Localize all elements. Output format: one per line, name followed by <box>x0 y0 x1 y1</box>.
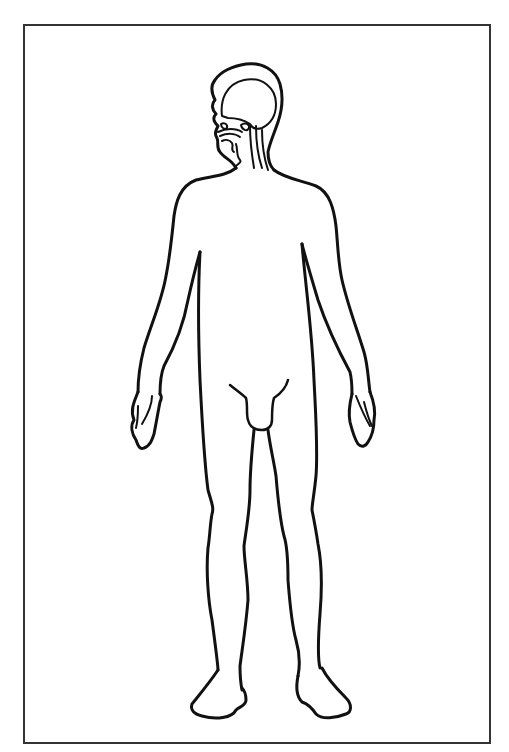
left-leg <box>199 252 255 690</box>
right-foot <box>297 668 351 718</box>
right-hand <box>349 392 375 446</box>
human-body-figure <box>0 0 509 752</box>
left-foot <box>191 670 246 718</box>
brain <box>222 79 276 129</box>
spinal-cord <box>250 126 268 170</box>
right-leg <box>268 244 321 676</box>
groin <box>230 380 288 430</box>
nasal-cavity <box>218 123 249 137</box>
left-hand <box>132 392 162 449</box>
torso <box>138 168 370 392</box>
